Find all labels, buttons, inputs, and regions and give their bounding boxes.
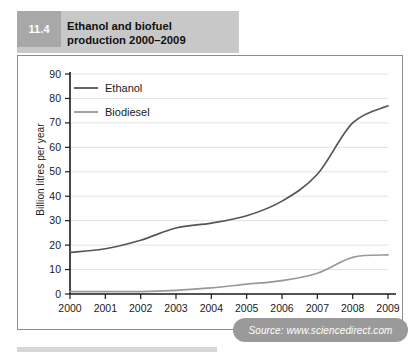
x-axis-tick-label: 2008 [341, 302, 365, 314]
plot-area: Billion litres per year 0102030405060708… [18, 56, 402, 329]
y-axis-tick-label: 50 [49, 165, 61, 177]
chart-legend: EthanolBiodiesel [74, 82, 150, 118]
figure-number-block: 11.4 [17, 11, 61, 47]
x-axis-tick-label: 2003 [164, 302, 188, 314]
x-axis-tick-label: 2006 [270, 302, 294, 314]
figure-number: 11.4 [28, 23, 49, 35]
x-axis-tick-label: 2007 [306, 302, 330, 314]
y-axis-tick-label: 20 [49, 239, 61, 251]
y-axis-tick-label: 0 [55, 288, 61, 300]
x-axis-tick-labels-group: 2000200120022003200420052006200720082009 [58, 302, 400, 314]
source-label: Source: www.sciencedirect.com [248, 325, 392, 336]
line-chart-svg: 0102030405060708090 20002001200220032004… [18, 56, 404, 329]
figure-title: Ethanol and biofuel production 2000–2009 [67, 17, 186, 47]
y-axis-tick-labels-group: 0102030405060708090 [49, 68, 61, 300]
x-axis-tick-label: 2009 [376, 302, 400, 314]
y-axis-tick-label: 90 [49, 68, 61, 80]
legend-label-ethanol: Ethanol [105, 82, 142, 94]
y-axis-tick-label: 40 [49, 190, 61, 202]
y-axis-title: Billion litres per year [35, 95, 46, 245]
y-axis-tick-label: 70 [49, 116, 61, 128]
figure-title-line-1: Ethanol and biofuel [67, 19, 186, 33]
figure-title-line-2: production 2000–2009 [67, 33, 186, 47]
y-axis-tick-label: 60 [49, 141, 61, 153]
chart-frame: Billion litres per year 0102030405060708… [17, 55, 403, 330]
series-line-ethanol [70, 106, 388, 253]
x-axis-tick-label: 2001 [94, 302, 118, 314]
y-axis-tick-label: 30 [49, 214, 61, 226]
gridlines-group [70, 74, 388, 270]
figure-header-banner: 11.4 Ethanol and biofuel production 2000… [17, 11, 239, 53]
data-series-group [70, 106, 388, 292]
x-axis-tick-label: 2004 [200, 302, 224, 314]
y-axis-tick-label: 80 [49, 92, 61, 104]
x-axis-tick-label: 2002 [129, 302, 153, 314]
x-axis-tick-label: 2005 [235, 302, 259, 314]
x-axis-tick-label: 2000 [58, 302, 82, 314]
legend-label-biodiesel: Biodiesel [105, 106, 150, 118]
y-axis-tick-label: 10 [49, 263, 61, 275]
series-line-biodiesel [70, 255, 388, 292]
source-badge: Source: www.sciencedirect.com [233, 318, 408, 342]
bottom-decorative-strip [17, 347, 217, 352]
